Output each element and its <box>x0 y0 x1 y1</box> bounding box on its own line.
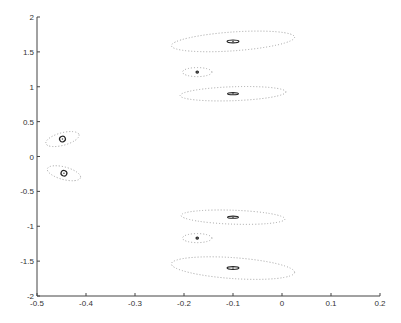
cluster-7 <box>183 234 212 243</box>
cluster-center-point <box>63 172 65 174</box>
x-tick-label: -0.1 <box>226 299 240 308</box>
cluster-center-point <box>196 71 198 73</box>
cluster-6 <box>181 208 285 226</box>
y-tick-label: 0 <box>30 153 35 162</box>
cluster-center-point <box>196 237 198 239</box>
y-tick-label: -0.5 <box>20 187 34 196</box>
y-tick-label: 1 <box>30 83 35 92</box>
x-tick-label: 0.2 <box>374 299 386 308</box>
cluster-1 <box>171 28 295 55</box>
cluster-2 <box>183 68 212 77</box>
cluster-5 <box>46 163 82 184</box>
y-tick-label: 2 <box>30 13 35 22</box>
y-tick-label: 0.5 <box>23 118 35 127</box>
cluster-center-point <box>232 41 234 43</box>
axes: -0.5-0.4-0.3-0.2-0.100.10.2-2-1.5-1-0.50… <box>20 13 386 308</box>
x-tick-label: -0.2 <box>177 299 191 308</box>
cluster-4 <box>44 129 80 150</box>
x-tick-label: -0.4 <box>79 299 93 308</box>
cluster-center-point <box>232 216 234 218</box>
cluster-center-point <box>232 93 234 95</box>
y-tick-label: 1.5 <box>23 48 35 57</box>
cluster-3 <box>180 85 286 103</box>
y-tick-label: -1.5 <box>20 257 34 266</box>
x-tick-label: 0.1 <box>325 299 337 308</box>
cluster-center-point <box>62 138 64 140</box>
cluster-center-point <box>232 267 234 269</box>
y-tick-label: -1 <box>27 222 35 231</box>
chart-marks <box>44 28 295 283</box>
x-tick-label: -0.3 <box>128 299 142 308</box>
cluster-8 <box>171 253 296 282</box>
chart: -0.5-0.4-0.3-0.2-0.100.10.2-2-1.5-1-0.50… <box>0 0 401 323</box>
y-tick-label: -2 <box>27 292 35 301</box>
x-tick-label: 0 <box>280 299 285 308</box>
